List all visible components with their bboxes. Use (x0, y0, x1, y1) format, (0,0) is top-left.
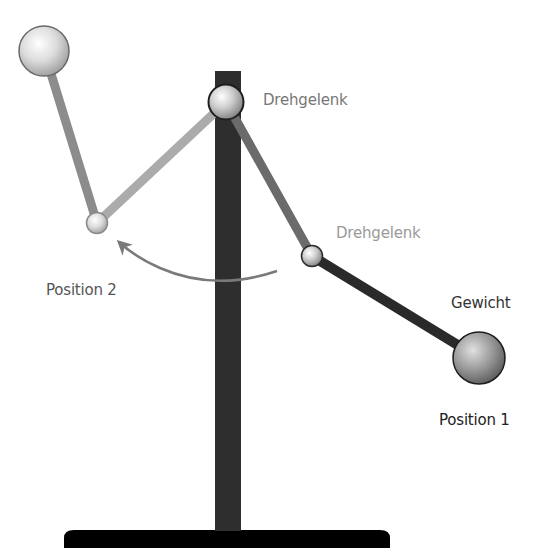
arm-position-2-upper (97, 102, 226, 223)
pendulum-diagram: Drehgelenk Drehgelenk Gewicht Position 1… (0, 0, 557, 555)
weight-ball-position-2 (19, 26, 69, 76)
arm-position-2-lower (44, 51, 97, 223)
stand-pole (215, 71, 241, 531)
top-joint (209, 85, 244, 120)
pendulum-drawing (0, 0, 557, 555)
rotation-arrow (119, 242, 277, 281)
label-middle-joint: Drehgelenk (336, 226, 420, 241)
label-weight: Gewicht (451, 296, 511, 311)
weight-ball-position-1 (453, 332, 505, 384)
middle-joint-position-2 (87, 213, 108, 234)
label-position-2: Position 2 (46, 283, 117, 298)
label-position-1: Position 1 (439, 413, 510, 428)
middle-joint-position-1 (302, 246, 323, 267)
stand-base (64, 530, 390, 548)
label-top-joint: Drehgelenk (263, 93, 347, 108)
